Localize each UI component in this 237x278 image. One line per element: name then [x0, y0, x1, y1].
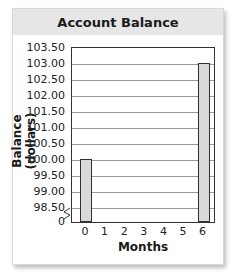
x-tick-label: 0 — [82, 225, 89, 238]
x-tick-label: 2 — [121, 225, 128, 238]
x-tick-label: 6 — [199, 225, 206, 238]
plot-area — [71, 47, 215, 223]
y-tick-label: 102.00 — [27, 89, 66, 102]
gridline — [72, 128, 214, 129]
x-tick-label: 3 — [140, 225, 147, 238]
gridline — [72, 208, 214, 209]
gridline — [72, 160, 214, 161]
x-axis-label: Months — [71, 240, 215, 254]
y-tick-label: 103.50 — [27, 41, 66, 54]
y-tick-label: 98.50 — [34, 201, 66, 214]
y-tick-label: 99.00 — [34, 185, 66, 198]
y-tick-label: 103.00 — [27, 57, 66, 70]
bar-month-0 — [80, 159, 92, 222]
x-tick-label: 4 — [160, 225, 167, 238]
y-tick-label: 100.00 — [27, 153, 66, 166]
chart-title: Account Balance — [13, 9, 223, 35]
bar-month-6 — [198, 63, 210, 222]
x-tick-label: 1 — [101, 225, 108, 238]
gridline — [72, 112, 214, 113]
gridline — [72, 64, 214, 65]
y-tick-label: 102.50 — [27, 73, 66, 86]
y-tick-label-zero: 0 — [58, 215, 65, 228]
gridline — [72, 192, 214, 193]
y-tick-label: 100.50 — [27, 137, 66, 150]
y-tick-label: 101.00 — [27, 121, 66, 134]
gridline — [72, 176, 214, 177]
chart-card: Account Balance Balance (dollars) Months… — [12, 8, 224, 265]
x-tick-label: 5 — [180, 225, 187, 238]
gridline — [72, 96, 214, 97]
gridline — [72, 80, 214, 81]
y-tick-label: 99.50 — [34, 169, 66, 182]
y-tick-label: 101.50 — [27, 105, 66, 118]
gridline — [72, 144, 214, 145]
